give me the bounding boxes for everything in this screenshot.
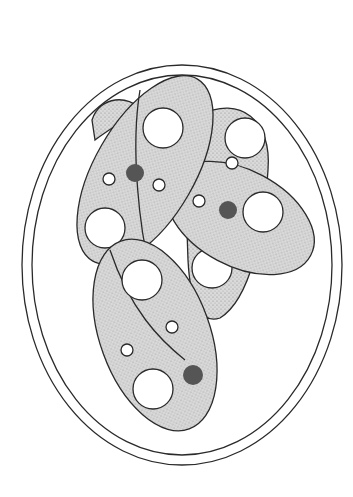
residuum-cluster [126, 164, 144, 182]
residuum-cluster [183, 365, 203, 385]
oocyst-illustration [0, 0, 353, 497]
residuum-cluster [219, 201, 237, 219]
oocyst-figure [0, 0, 353, 497]
